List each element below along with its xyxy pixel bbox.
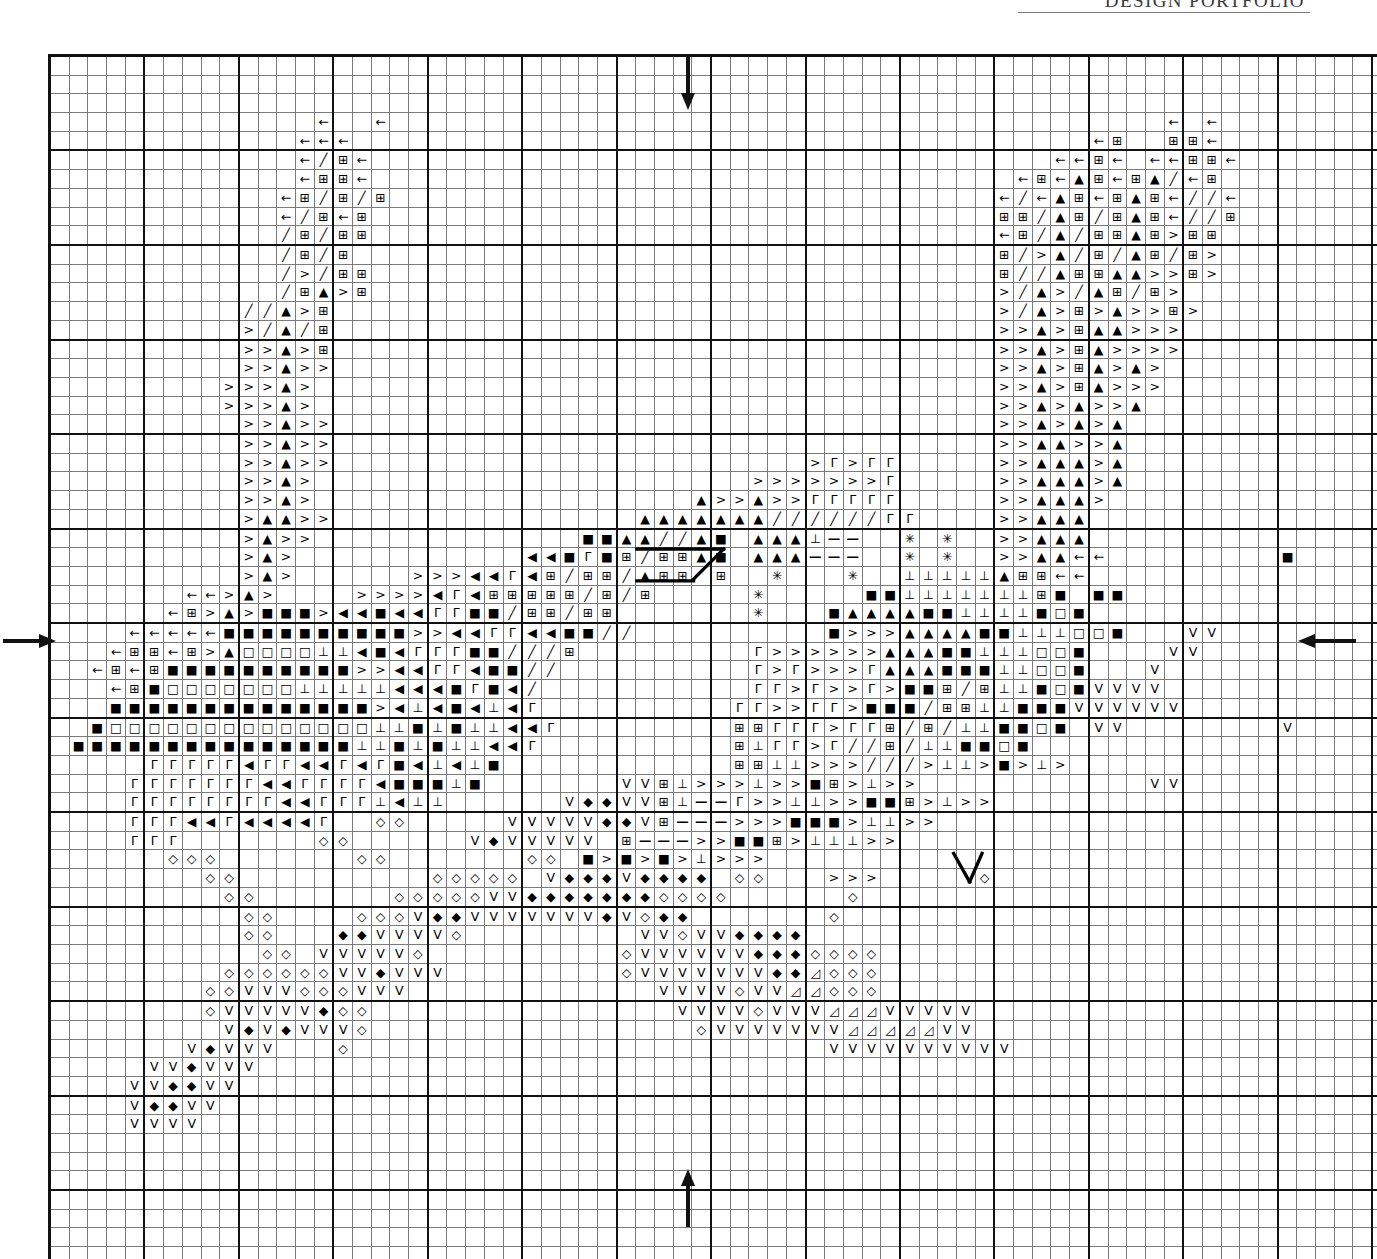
stitch-cell-empty[interactable] bbox=[1202, 1152, 1221, 1171]
stitch-cell-empty[interactable] bbox=[1127, 945, 1146, 964]
stitch-cell-empty[interactable] bbox=[806, 75, 825, 94]
stitch-cell-empty[interactable] bbox=[447, 94, 466, 113]
stitch-cell-empty[interactable] bbox=[88, 1058, 107, 1077]
stitch-cell-empty[interactable] bbox=[69, 57, 88, 75]
greater-than-symbol[interactable]: > bbox=[636, 850, 655, 869]
vee-symbol[interactable]: V bbox=[220, 1020, 239, 1039]
stitch-cell-empty[interactable] bbox=[617, 1115, 636, 1134]
boxed-plus-symbol[interactable]: ⊞ bbox=[560, 642, 579, 661]
vee-symbol[interactable]: V bbox=[314, 945, 333, 964]
stitch-cell-empty[interactable] bbox=[390, 1020, 409, 1039]
stitch-cell-empty[interactable] bbox=[88, 453, 107, 472]
stitch-cell-empty[interactable] bbox=[144, 1247, 163, 1259]
open-diamond-symbol[interactable]: ◇ bbox=[220, 982, 239, 1001]
stitch-cell-empty[interactable] bbox=[88, 755, 107, 774]
boxed-plus-symbol[interactable]: ⊞ bbox=[333, 170, 352, 189]
slash-symbol[interactable]: ╱ bbox=[295, 320, 314, 339]
stitch-cell-empty[interactable] bbox=[466, 434, 485, 453]
slash-symbol[interactable]: ╱ bbox=[1032, 264, 1051, 283]
filled-up-triangle-symbol[interactable]: ▲ bbox=[277, 396, 296, 415]
stitch-cell-empty[interactable] bbox=[636, 453, 655, 472]
filled-diamond-symbol[interactable]: ◆ bbox=[371, 963, 390, 982]
greater-than-symbol[interactable]: > bbox=[239, 340, 258, 359]
open-diamond-symbol[interactable]: ◇ bbox=[617, 945, 636, 964]
stitch-cell-empty[interactable] bbox=[1297, 887, 1316, 906]
slash-symbol[interactable]: ╱ bbox=[314, 150, 333, 169]
stitch-cell-empty[interactable] bbox=[503, 1001, 522, 1020]
stitch-cell-empty[interactable] bbox=[1108, 1247, 1127, 1259]
stitch-cell-empty[interactable] bbox=[1353, 887, 1372, 906]
stitch-cell-empty[interactable] bbox=[692, 320, 711, 339]
stitch-cell-empty[interactable] bbox=[1183, 453, 1202, 472]
perpendicular-symbol[interactable]: ⊥ bbox=[919, 737, 938, 756]
perpendicular-symbol[interactable]: ⊥ bbox=[975, 604, 994, 623]
stitch-cell-empty[interactable] bbox=[220, 57, 239, 75]
stitch-cell-empty[interactable] bbox=[295, 1076, 314, 1095]
filled-up-triangle-symbol[interactable]: ▲ bbox=[749, 529, 768, 548]
stitch-cell-empty[interactable] bbox=[522, 982, 541, 1001]
stitch-cell-empty[interactable] bbox=[1221, 718, 1240, 737]
filled-left-triangle-symbol[interactable]: ◀ bbox=[522, 566, 541, 585]
stitch-cell-empty[interactable] bbox=[938, 1228, 957, 1247]
stitch-cell-empty[interactable] bbox=[258, 1134, 277, 1153]
stitch-cell-empty[interactable] bbox=[88, 415, 107, 434]
stitch-cell-empty[interactable] bbox=[957, 396, 976, 415]
vee-symbol[interactable]: V bbox=[484, 887, 503, 906]
stitch-cell-empty[interactable] bbox=[1372, 907, 1377, 926]
stitch-cell-empty[interactable] bbox=[1183, 566, 1202, 585]
stitch-cell-empty[interactable] bbox=[900, 264, 919, 283]
filled-up-triangle-symbol[interactable]: ▲ bbox=[277, 472, 296, 491]
filled-up-triangle-symbol[interactable]: ▲ bbox=[1108, 415, 1127, 434]
stitch-cell-empty[interactable] bbox=[919, 491, 938, 510]
stitch-cell-empty[interactable] bbox=[51, 604, 69, 623]
stitch-cell-empty[interactable] bbox=[786, 283, 805, 302]
stitch-cell-empty[interactable] bbox=[1353, 94, 1372, 113]
stitch-cell-empty[interactable] bbox=[1089, 945, 1108, 964]
stitch-cell-empty[interactable] bbox=[1372, 1058, 1377, 1077]
stitch-cell-empty[interactable] bbox=[447, 793, 466, 812]
stitch-cell-empty[interactable] bbox=[144, 377, 163, 396]
stitch-cell-empty[interactable] bbox=[466, 472, 485, 491]
stitch-cell-empty[interactable] bbox=[1221, 1247, 1240, 1259]
stitch-cell-empty[interactable] bbox=[579, 415, 598, 434]
stitch-cell-empty[interactable] bbox=[938, 57, 957, 75]
stitch-cell-empty[interactable] bbox=[1127, 1228, 1146, 1247]
vee-symbol[interactable]: V bbox=[975, 1039, 994, 1058]
vee-symbol[interactable]: V bbox=[144, 1115, 163, 1134]
stitch-cell-empty[interactable] bbox=[692, 698, 711, 717]
greater-than-symbol[interactable]: > bbox=[994, 491, 1013, 510]
stitch-cell-empty[interactable] bbox=[466, 1134, 485, 1153]
stitch-cell-empty[interactable] bbox=[957, 170, 976, 189]
stitch-cell-empty[interactable] bbox=[371, 1190, 390, 1209]
vee-symbol[interactable]: V bbox=[730, 963, 749, 982]
stitch-cell-empty[interactable] bbox=[1089, 1115, 1108, 1134]
stitch-cell-empty[interactable] bbox=[957, 359, 976, 378]
stitch-cell-empty[interactable] bbox=[1240, 320, 1259, 339]
stitch-cell-empty[interactable] bbox=[749, 396, 768, 415]
stitch-cell-empty[interactable] bbox=[786, 302, 805, 321]
stitch-cell-empty[interactable] bbox=[88, 548, 107, 567]
stitch-cell-empty[interactable] bbox=[1051, 1134, 1070, 1153]
stitch-cell-empty[interactable] bbox=[503, 1096, 522, 1115]
stitch-cell-empty[interactable] bbox=[295, 1152, 314, 1171]
stitch-cell-empty[interactable] bbox=[786, 359, 805, 378]
stitch-cell-empty[interactable] bbox=[69, 396, 88, 415]
stitch-cell-empty[interactable] bbox=[1316, 1209, 1335, 1228]
slash-symbol[interactable]: ╱ bbox=[541, 642, 560, 661]
stitch-cell-empty[interactable] bbox=[673, 642, 692, 661]
slash-symbol[interactable]: ╱ bbox=[900, 718, 919, 737]
stitch-cell-empty[interactable] bbox=[1183, 1190, 1202, 1209]
stitch-cell-empty[interactable] bbox=[825, 150, 844, 169]
stitch-cell-empty[interactable] bbox=[1353, 642, 1372, 661]
stitch-cell-empty[interactable] bbox=[484, 850, 503, 869]
stitch-cell-empty[interactable] bbox=[1202, 926, 1221, 945]
stitch-cell-empty[interactable] bbox=[164, 75, 183, 94]
filled-square-symbol[interactable]: ■ bbox=[957, 737, 976, 756]
stitch-cell-empty[interactable] bbox=[1278, 831, 1297, 850]
stitch-cell-empty[interactable] bbox=[636, 150, 655, 169]
greater-than-symbol[interactable]: > bbox=[786, 680, 805, 699]
greater-than-symbol[interactable]: > bbox=[277, 566, 296, 585]
stitch-cell-empty[interactable] bbox=[314, 1209, 333, 1228]
stitch-cell-empty[interactable] bbox=[484, 529, 503, 548]
stitch-cell-empty[interactable] bbox=[881, 283, 900, 302]
